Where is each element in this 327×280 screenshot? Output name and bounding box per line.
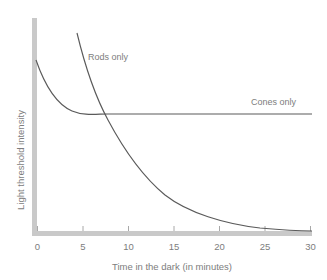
x-tick-label-15: 15 <box>169 241 180 252</box>
x-axis-line <box>32 231 312 236</box>
x-tick-label-5: 5 <box>80 241 85 252</box>
x-axis-title: Time in the dark (in minutes) <box>112 261 232 272</box>
y-axis-title: Light threshold intensity <box>15 110 26 210</box>
x-tick-labels: 0 5 10 15 20 25 30 <box>35 241 316 252</box>
rods-only-label: Rods only <box>88 52 129 62</box>
x-tick-label-20: 20 <box>214 241 225 252</box>
x-tick-label-30: 30 <box>305 241 316 252</box>
chart-container: 0 5 10 15 20 25 30 Time in the dark (in … <box>0 0 327 280</box>
cones-only-label: Cones only <box>251 97 297 107</box>
rods-only-curve <box>77 33 312 231</box>
x-tick-label-25: 25 <box>260 241 271 252</box>
dark-adaptation-chart: 0 5 10 15 20 25 30 Time in the dark (in … <box>0 0 327 280</box>
x-tick-label-0: 0 <box>35 241 40 252</box>
x-tick-label-10: 10 <box>123 241 134 252</box>
y-axis-line <box>32 18 37 236</box>
